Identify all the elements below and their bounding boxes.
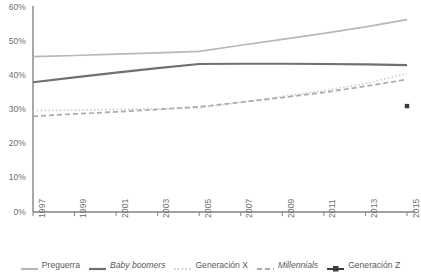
x-axis-tick-label: 2005 [203,199,213,218]
chart-legend: PreguerraBaby boomersGeneración XMillenn… [0,256,421,274]
legend-swatch-icon [327,260,344,270]
legend-item[interactable]: Millennials [257,260,318,270]
x-axis-tick-label: 1999 [78,199,88,218]
legend-item[interactable]: Baby boomers [89,260,165,270]
series-line [33,64,407,82]
x-axis-tick-label: 2009 [286,199,296,218]
x-axis-tick-label: 2003 [161,199,171,218]
legend-item[interactable]: Generación X [174,260,248,270]
y-axis-tick-label: 40% [2,70,26,80]
y-axis-tick-label: 30% [2,104,26,114]
legend-swatch-icon [21,260,38,270]
x-axis-tick-label: 2001 [120,199,130,218]
y-axis-tick-label: 60% [2,2,26,12]
legend-item[interactable]: Generación Z [327,260,400,270]
legend-label: Generación Z [348,260,400,270]
x-axis-tick-label: 2007 [244,199,254,218]
legend-label: Millennials [278,260,318,270]
series-line [33,20,407,57]
data-series-layer [33,20,409,117]
data-point-marker [405,104,409,108]
legend-item[interactable]: Preguerra [21,260,80,270]
x-axis-tick-label: 2015 [411,199,421,218]
y-axis-tick-label: 0% [2,207,26,217]
legend-label: Baby boomers [110,260,165,270]
x-axis-tick-label: 2011 [327,199,337,218]
x-axis-tick-label: 2013 [369,199,379,218]
series-line [33,79,407,116]
line-chart: 0%10%20%30%40%50%60% 1997199920012003200… [0,0,421,275]
chart-plot-area [0,0,421,275]
legend-label: Generación X [195,260,248,270]
legend-swatch-icon [89,260,106,270]
y-axis-tick-label: 20% [2,138,26,148]
y-axis-tick-label: 10% [2,172,26,182]
x-axis-tick-label: 1997 [37,199,47,218]
legend-swatch-icon [257,260,274,270]
legend-swatch-icon [174,260,191,270]
axis-lines [33,6,415,212]
legend-label: Preguerra [42,260,80,270]
y-axis-tick-label: 50% [2,36,26,46]
